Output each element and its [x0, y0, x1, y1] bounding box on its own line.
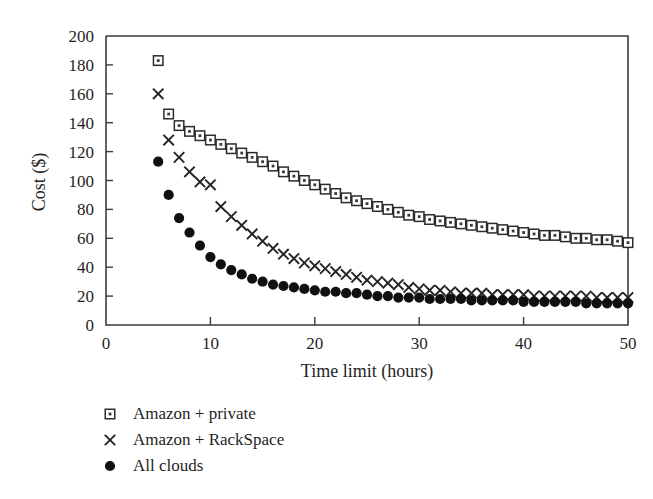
y-tick-label: 140: [69, 114, 95, 133]
marker-square-center-dot: [616, 240, 619, 243]
y-tick-label: 60: [77, 229, 94, 248]
marker-filled-circle: [592, 298, 602, 308]
marker-cross: [372, 276, 382, 286]
marker-filled-circle: [105, 461, 115, 471]
marker-cross: [393, 279, 403, 289]
marker-filled-circle: [445, 294, 455, 304]
marker-square-center-dot: [501, 228, 504, 231]
marker-cross: [299, 258, 309, 268]
marker-filled-circle: [237, 269, 247, 279]
marker-filled-circle: [456, 294, 466, 304]
marker-filled-circle: [425, 294, 435, 304]
marker-filled-circle: [393, 292, 403, 302]
marker-filled-circle: [498, 295, 508, 305]
chart-svg: Cost ($) 020406080100120140160180200 010…: [0, 0, 653, 499]
marker-cross: [362, 275, 372, 285]
marker-filled-circle: [278, 281, 288, 291]
marker-square-center-dot: [428, 218, 431, 221]
marker-square-center-dot: [334, 192, 337, 195]
marker-square-center-dot: [109, 413, 112, 416]
marker-filled-circle: [195, 240, 205, 250]
marker-cross: [310, 261, 320, 271]
marker-cross: [404, 282, 414, 292]
marker-square-center-dot: [397, 211, 400, 214]
marker-square-center-dot: [449, 221, 452, 224]
marker-square-center-dot: [272, 165, 275, 168]
marker-filled-circle: [539, 297, 549, 307]
marker-filled-circle: [153, 157, 163, 167]
marker-filled-circle: [216, 259, 226, 269]
y-tick-label: 160: [69, 85, 95, 104]
legend-item-label: Amazon + RackSpace: [133, 430, 284, 449]
marker-filled-circle: [435, 294, 445, 304]
y-tick-label: 20: [77, 287, 94, 306]
marker-square-center-dot: [439, 220, 442, 223]
marker-square-center-dot: [199, 134, 202, 137]
marker-filled-circle: [205, 252, 215, 262]
marker-cross: [105, 435, 115, 445]
marker-square-center-dot: [313, 183, 316, 186]
marker-filled-circle: [320, 287, 330, 297]
marker-square-center-dot: [345, 196, 348, 199]
marker-filled-circle: [310, 285, 320, 295]
y-axis-title-text: Cost ($): [29, 153, 50, 212]
marker-filled-circle: [560, 297, 570, 307]
marker-square-center-dot: [178, 124, 181, 127]
y-tick-label: 120: [69, 143, 95, 162]
marker-square-center-dot: [324, 188, 327, 191]
marker-filled-circle: [383, 291, 393, 301]
marker-square-center-dot: [219, 143, 222, 146]
marker-filled-circle: [602, 298, 612, 308]
marker-square-center-dot: [491, 227, 494, 230]
marker-cross: [247, 229, 257, 239]
marker-cross: [237, 220, 247, 230]
marker-filled-circle: [372, 291, 382, 301]
marker-square-center-dot: [303, 179, 306, 182]
marker-square-center-dot: [376, 205, 379, 208]
y-tick-label: 100: [69, 172, 95, 191]
marker-filled-circle: [404, 292, 414, 302]
marker-cross: [174, 152, 184, 162]
legend-item-label: All clouds: [133, 456, 203, 475]
marker-cross: [216, 201, 226, 211]
x-tick-label: 0: [102, 334, 111, 353]
marker-square-center-dot: [595, 238, 598, 241]
marker-filled-circle: [362, 290, 372, 300]
marker-filled-circle: [247, 274, 257, 284]
x-tick-label: 40: [515, 334, 532, 353]
marker-cross: [184, 167, 194, 177]
marker-filled-circle: [299, 284, 309, 294]
marker-filled-circle: [623, 298, 633, 308]
marker-square-center-dot: [251, 156, 254, 159]
legend-item-2: Amazon + RackSpace: [105, 430, 284, 449]
marker-filled-circle: [477, 295, 487, 305]
x-axis-ticks: 01020304050: [102, 317, 637, 353]
legend-item-3: All clouds: [105, 456, 203, 475]
marker-filled-circle: [351, 288, 361, 298]
marker-cross: [257, 236, 267, 246]
marker-cross: [195, 177, 205, 187]
marker-square-center-dot: [585, 237, 588, 240]
marker-filled-circle: [289, 282, 299, 292]
y-tick-label: 200: [69, 27, 95, 46]
x-tick-label: 30: [411, 334, 428, 353]
marker-square-center-dot: [606, 238, 609, 241]
marker-filled-circle: [508, 295, 518, 305]
marker-filled-circle: [174, 213, 184, 223]
legend-item-1: Amazon + private: [105, 404, 256, 423]
marker-square-center-dot: [293, 175, 296, 178]
marker-square-center-dot: [355, 199, 358, 202]
marker-square-center-dot: [533, 233, 536, 236]
marker-filled-circle: [258, 277, 268, 287]
marker-square-center-dot: [554, 234, 557, 237]
marker-square-center-dot: [627, 241, 630, 244]
marker-filled-circle: [164, 190, 174, 200]
marker-cross: [383, 278, 393, 288]
y-tick-label: 180: [69, 56, 95, 75]
marker-square-center-dot: [522, 231, 525, 234]
marker-square-center-dot: [188, 130, 191, 133]
marker-filled-circle: [519, 297, 529, 307]
marker-square-center-dot: [418, 215, 421, 218]
marker-filled-circle: [414, 292, 424, 302]
marker-square-center-dot: [564, 235, 567, 238]
